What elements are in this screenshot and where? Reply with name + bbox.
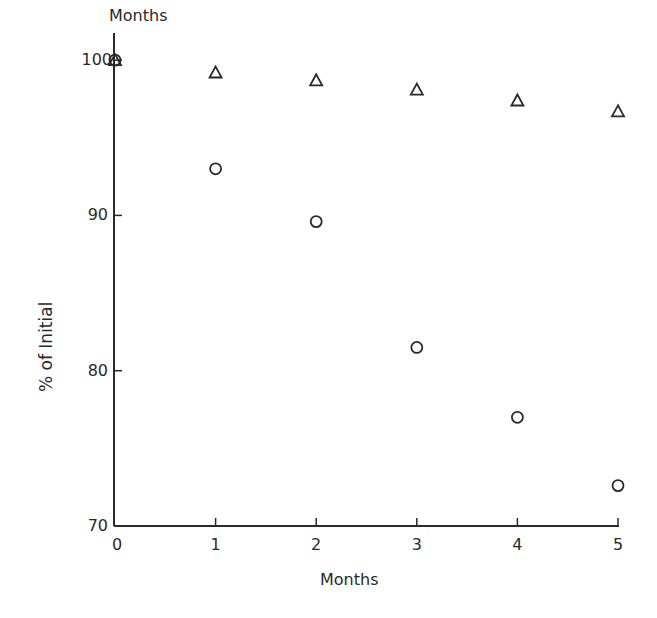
data-points xyxy=(109,54,624,491)
chart-title: Months xyxy=(109,6,167,25)
circle-marker xyxy=(210,163,221,174)
circle-marker xyxy=(512,412,523,423)
circle-marker xyxy=(613,480,624,491)
triangle-marker xyxy=(511,94,523,105)
x-tick-label: 4 xyxy=(502,535,532,554)
y-tick-label: 70 xyxy=(68,516,108,535)
y-tick-label: 90 xyxy=(68,205,108,224)
x-tick-label: 1 xyxy=(201,535,231,554)
triangle-marker xyxy=(612,105,624,116)
triangle-marker xyxy=(210,67,222,78)
y-tick-label: 100 xyxy=(72,50,112,69)
circle-marker xyxy=(311,216,322,227)
x-tick-label: 0 xyxy=(102,535,132,554)
y-tick-label: 80 xyxy=(68,361,108,380)
triangle-marker xyxy=(411,84,423,95)
x-tick-label: 2 xyxy=(301,535,331,554)
x-axis-label: Months xyxy=(320,570,378,589)
circle-marker xyxy=(411,342,422,353)
x-tick-label: 5 xyxy=(603,535,633,554)
y-axis-label: % of Initial xyxy=(36,302,56,392)
triangle-marker xyxy=(310,74,322,85)
x-tick-label: 3 xyxy=(402,535,432,554)
y-ticks xyxy=(114,60,122,371)
x-ticks xyxy=(216,518,618,526)
